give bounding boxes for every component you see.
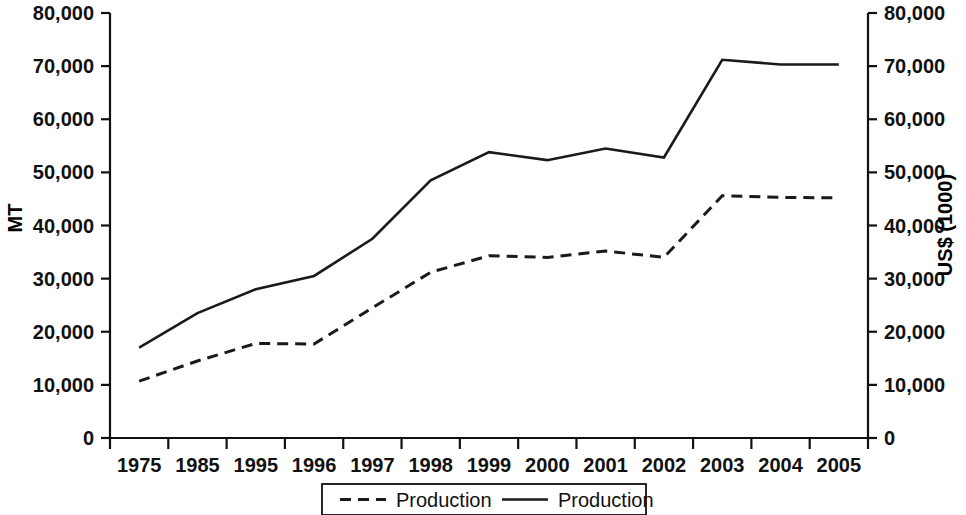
left-y-axis: 010,00020,00030,00040,00050,00060,00070,… bbox=[33, 2, 110, 449]
data-series-group bbox=[139, 60, 839, 381]
x-axis-tick-label: 1999 bbox=[467, 454, 512, 476]
left-axis-tick-label: 70,000 bbox=[33, 55, 94, 77]
series-line-dashed bbox=[139, 196, 839, 381]
right-axis-tick-label: 20,000 bbox=[884, 321, 945, 343]
x-axis-tick-label: 1985 bbox=[175, 454, 220, 476]
left-axis-tick-label: 60,000 bbox=[33, 108, 94, 130]
left-axis-tick-label: 20,000 bbox=[33, 321, 94, 343]
left-axis-tick-label: 10,000 bbox=[33, 374, 94, 396]
x-axis-tick-label: 1995 bbox=[234, 454, 279, 476]
right-axis-tick-label: 10,000 bbox=[884, 374, 945, 396]
right-axis-tick-label: 0 bbox=[884, 427, 895, 449]
x-axis-tick-label: 2004 bbox=[758, 454, 803, 476]
line-chart: 010,00020,00030,00040,00050,00060,00070,… bbox=[0, 0, 966, 515]
right-axis-tick-label: 60,000 bbox=[884, 108, 945, 130]
x-axis-tick-label: 1975 bbox=[117, 454, 162, 476]
x-axis: 1975198519951996199719981999200020012002… bbox=[110, 438, 868, 476]
left-axis-tick-label: 50,000 bbox=[33, 161, 94, 183]
legend-label: Production bbox=[396, 489, 492, 511]
chart-legend: ProductionProduction bbox=[322, 484, 654, 515]
left-axis-tick-label: 30,000 bbox=[33, 268, 94, 290]
left-axis-title: MT bbox=[4, 204, 26, 233]
left-axis-tick-label: 40,000 bbox=[33, 215, 94, 237]
left-axis-tick-label: 0 bbox=[83, 427, 94, 449]
right-axis-title: US$ (1000) bbox=[934, 174, 956, 276]
x-axis-tick-label: 1998 bbox=[408, 454, 453, 476]
left-axis-tick-label: 80,000 bbox=[33, 2, 94, 24]
right-axis-tick-label: 70,000 bbox=[884, 55, 945, 77]
x-axis-tick-label: 2001 bbox=[583, 454, 628, 476]
x-axis-tick-label: 2000 bbox=[525, 454, 570, 476]
x-axis-tick-label: 2002 bbox=[642, 454, 687, 476]
x-axis-tick-label: 2003 bbox=[700, 454, 745, 476]
chart-container: 010,00020,00030,00040,00050,00060,00070,… bbox=[0, 0, 966, 515]
x-axis-tick-label: 2005 bbox=[817, 454, 862, 476]
x-axis-tick-label: 1997 bbox=[350, 454, 395, 476]
right-axis-tick-label: 80,000 bbox=[884, 2, 945, 24]
x-axis-tick-label: 1996 bbox=[292, 454, 337, 476]
series-line-solid bbox=[139, 60, 839, 348]
legend-label: Production bbox=[558, 489, 654, 511]
